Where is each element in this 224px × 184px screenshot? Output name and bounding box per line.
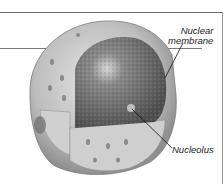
label-nucleolus: Nucleolus [172,145,214,155]
nucleus-diagram: Nuclear membrane Nucleolus [0,0,224,184]
label-nuclear-membrane: Nuclear membrane [168,26,213,46]
label-line: membrane [168,36,213,46]
